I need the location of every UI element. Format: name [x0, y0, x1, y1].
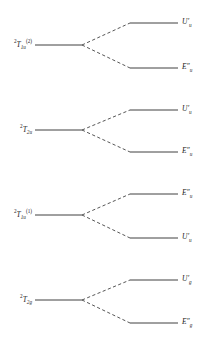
term-subscript: g [190, 322, 193, 328]
correlation-connector-line [82, 130, 130, 152]
term-subscript: 1u [21, 214, 26, 220]
term-superscript: (2) [26, 38, 32, 44]
child-term-label: E″u [182, 147, 192, 157]
correlation-connector-line [82, 215, 130, 238]
child-term-label: U′g [182, 275, 192, 285]
child-term-label: E″u [182, 189, 192, 199]
energy-level-diagram: 2T1u(2)U′uE″u2T2uU′uE″u2T1u(1)E″uU′u2T2g… [0, 0, 206, 345]
level-lines-group [35, 23, 178, 323]
term-subscript: u [190, 67, 193, 73]
term-subscript: 2u [27, 129, 32, 135]
parent-term-label: 2T1u(1) [14, 209, 32, 220]
child-term-label: U′u [182, 18, 192, 28]
parent-term-label: 2T2u [20, 124, 32, 135]
term-subscript: u [189, 22, 192, 28]
child-term-label: U′u [182, 105, 192, 115]
parent-term-label: 2T1u(2) [14, 39, 32, 50]
child-term-label: U′u [182, 233, 192, 243]
correlation-connector-line [82, 280, 130, 300]
child-term-label: E″g [182, 318, 192, 328]
correlation-connector-line [82, 194, 130, 215]
correlation-connector-line [82, 300, 130, 323]
correlation-connector-line [82, 45, 130, 68]
term-subscript: 2g [27, 299, 32, 305]
term-subscript: u [190, 193, 193, 199]
term-superscript: (1) [26, 208, 32, 214]
term-subscript: u [189, 109, 192, 115]
parent-term-label: 2T2g [20, 294, 32, 305]
term-subscript: u [190, 151, 193, 157]
term-subscript: u [189, 237, 192, 243]
child-term-label: E″u [182, 63, 192, 73]
term-subscript: g [189, 279, 192, 285]
term-subscript: 1u [21, 44, 26, 50]
correlation-connector-line [82, 110, 130, 130]
correlation-connector-line [82, 23, 130, 45]
level-lines-svg [0, 0, 206, 345]
